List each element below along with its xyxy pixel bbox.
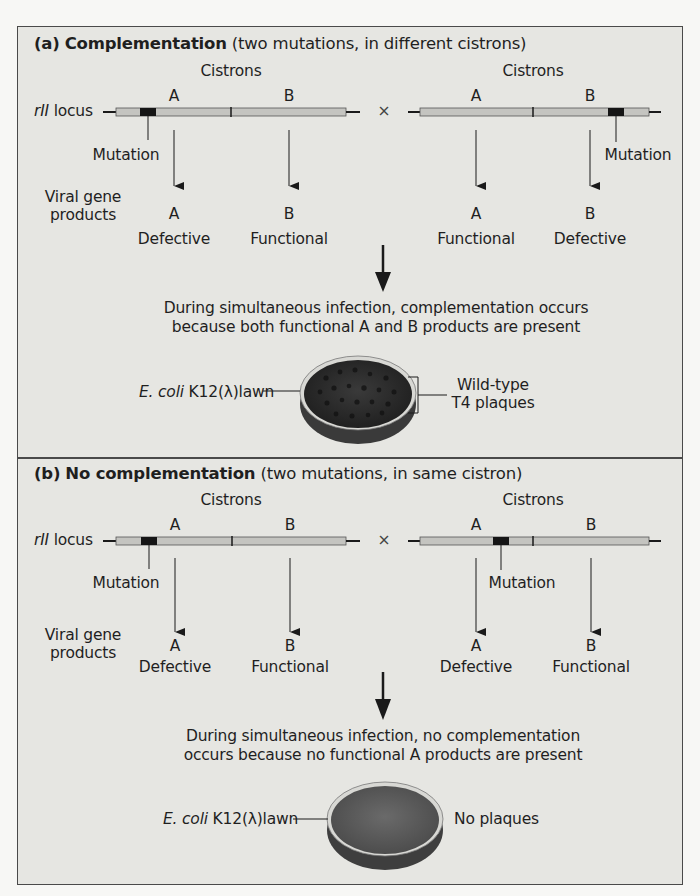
- panel-b-right-cistron-a: A: [471, 516, 481, 534]
- panel-a-lawn-label: E. coli K12(λ)lawn: [139, 383, 274, 401]
- panel-a-product-4-letter: B: [585, 205, 595, 223]
- panel-a-right-locus: [408, 107, 661, 142]
- mutation-block: [140, 108, 156, 116]
- panel-a-petri-dish: [263, 356, 447, 444]
- panel-b-result-line-2: occurs because no functional A products …: [184, 746, 583, 764]
- panel-b-lawn-label: E. coli K12(λ)lawn: [163, 810, 298, 828]
- panel-b-product-2-status: Functional: [251, 658, 329, 676]
- panel-a-right-cistron-a: A: [471, 87, 481, 105]
- panel-a-mutation-right-label: Mutation: [605, 146, 672, 164]
- panel-a-product-1-status: Defective: [138, 230, 210, 248]
- panel-b-product-1-status: Defective: [139, 658, 211, 676]
- panel-a-product-4-status: Defective: [554, 230, 626, 248]
- panel-a-product-2-letter: B: [284, 205, 294, 223]
- panel-b-left-locus: [103, 536, 360, 569]
- panel-a-product-3-status: Functional: [437, 230, 515, 248]
- panel-b-result-arrow: [375, 672, 391, 720]
- panel-a-result-line-2: because both functional A and B products…: [172, 318, 580, 336]
- panel-b-gene-products-label: Viral geneproducts: [45, 626, 121, 662]
- panel-a-result-arrow: [375, 245, 391, 292]
- mutation-block: [493, 537, 509, 545]
- panel-a-cistrons-right-label: Cistrons: [502, 62, 563, 80]
- panel-b-plaques-label: No plaques: [454, 810, 539, 828]
- panel-b-right-cistron-b: B: [586, 516, 596, 534]
- panel-b-right-locus: [408, 536, 661, 570]
- panel-b-cistrons-right-label: Cistrons: [502, 491, 563, 509]
- panel-b-product-1-letter: A: [170, 637, 180, 655]
- panel-b-petri-dish: [293, 782, 443, 870]
- panel-a-product-3-letter: A: [471, 205, 481, 223]
- mutation-block: [608, 108, 624, 116]
- panel-a-product-arrows: [174, 130, 590, 186]
- panel-a-left-cistron-b: B: [284, 87, 294, 105]
- panel-b-product-4-status: Functional: [552, 658, 630, 676]
- panel-a-left-locus: [103, 107, 360, 140]
- panel-a-right-cistron-b: B: [585, 87, 595, 105]
- panel-a-cross-symbol: ×: [378, 102, 391, 120]
- panel-b-mutation-right-label: Mutation: [489, 574, 556, 592]
- panel-b-cistrons-left-label: Cistrons: [200, 491, 261, 509]
- panel-b-cross-symbol: ×: [378, 531, 391, 549]
- panel-b-product-2-letter: B: [285, 637, 295, 655]
- panel-b-left-cistron-b: B: [285, 516, 295, 534]
- mutation-block: [141, 537, 157, 545]
- panel-a-plaques-label: Wild-typeT4 plaques: [451, 376, 534, 412]
- panel-a-product-1-letter: A: [169, 205, 179, 223]
- panel-b-left-cistron-a: A: [170, 516, 180, 534]
- panel-a-title: (a) Complementation (two mutations, in d…: [34, 35, 526, 53]
- panel-a-locus-label: rII locus: [34, 102, 93, 120]
- panel-b-product-3-letter: A: [471, 637, 481, 655]
- panel-a-result-line-1: During simultaneous infection, complemen…: [164, 299, 589, 317]
- panel-a-product-2-status: Functional: [250, 230, 328, 248]
- panel-b-result-line-1: During simultaneous infection, no comple…: [186, 727, 580, 745]
- panel-b-product-3-status: Defective: [440, 658, 512, 676]
- panel-b-product-arrows: [175, 558, 591, 632]
- panel-b-mutation-left-label: Mutation: [93, 574, 160, 592]
- panel-b-locus-label: rII locus: [34, 531, 93, 549]
- panel-a-mutation-left-label: Mutation: [93, 146, 160, 164]
- panel-b-product-4-letter: B: [586, 637, 596, 655]
- panel-a-left-cistron-a: A: [169, 87, 179, 105]
- panel-a-cistrons-left-label: Cistrons: [200, 62, 261, 80]
- panel-b-title: (b) No complementation (two mutations, i…: [34, 465, 522, 483]
- panel-a-gene-products-label: Viral geneproducts: [45, 188, 121, 224]
